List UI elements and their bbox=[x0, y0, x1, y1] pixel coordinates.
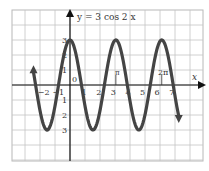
origin-label: 0 bbox=[72, 75, 77, 84]
labels: y = 3 cos 2 x x 0 π 2π bbox=[72, 12, 197, 84]
y-tick-label: 3 bbox=[62, 126, 67, 135]
x-tick-label: 3 bbox=[111, 88, 116, 97]
y-tick-label: 1 bbox=[62, 96, 67, 105]
two-pi-label: 2π bbox=[158, 68, 168, 77]
curve-end-arrow-icon bbox=[175, 115, 183, 123]
x-axis-arrow-icon bbox=[198, 81, 206, 89]
x-tick-label: 6 bbox=[155, 88, 160, 97]
x-tick-label: 5 bbox=[140, 88, 145, 97]
x-tick-label: −2 bbox=[38, 88, 50, 97]
axes bbox=[12, 9, 206, 161]
pi-label: π bbox=[115, 69, 120, 77]
chart-title: y = 3 cos 2 x bbox=[76, 12, 136, 22]
x-tick-label: 2 bbox=[96, 88, 101, 97]
cosine-graph: −2−11234567321123 y = 3 cos 2 x x 0 π 2π bbox=[0, 0, 209, 171]
curve-start-arrow-icon bbox=[30, 65, 38, 73]
y-tick-label: 2 bbox=[62, 111, 67, 120]
x-axis-label: x bbox=[192, 72, 197, 82]
